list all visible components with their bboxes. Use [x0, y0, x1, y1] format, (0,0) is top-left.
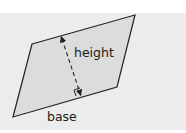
height-label: height	[74, 45, 114, 60]
base-label: base	[47, 109, 77, 124]
parallelogram-diagram: height base	[0, 0, 186, 133]
parallelogram-shape	[13, 15, 135, 117]
